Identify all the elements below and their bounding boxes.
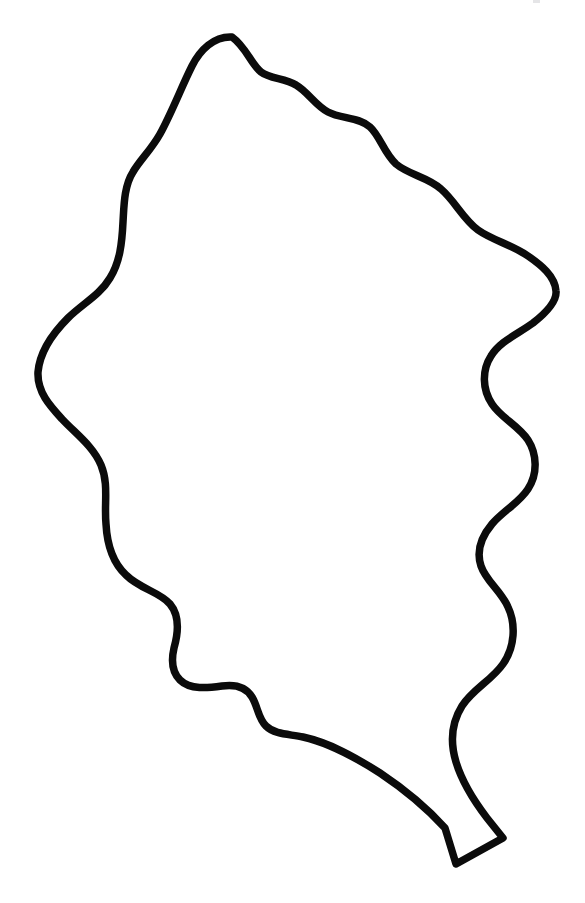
leaf-outline-figure bbox=[0, 0, 585, 903]
scan-artifact-mark bbox=[533, 0, 540, 3]
drawing-canvas bbox=[0, 0, 585, 903]
